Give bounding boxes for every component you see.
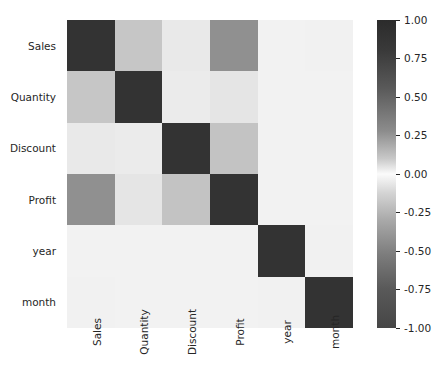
tick-mark-icon bbox=[396, 58, 400, 59]
x-tick-label: Quantity bbox=[138, 309, 150, 354]
heatmap-cell bbox=[67, 71, 115, 122]
heatmap-cell bbox=[67, 174, 115, 225]
heatmap-figure: Sales Quantity Discount Profit year mont… bbox=[0, 0, 443, 380]
heatmap-cell bbox=[305, 225, 353, 276]
y-tick-label: Sales bbox=[0, 20, 62, 71]
y-tick-label: Quantity bbox=[0, 71, 62, 122]
y-tick-label: Discount bbox=[0, 123, 62, 174]
colorbar-tick-label: -0.50 bbox=[404, 246, 431, 257]
heatmap-cell bbox=[210, 20, 258, 71]
heatmap-grid bbox=[67, 20, 353, 328]
y-tick-label: month bbox=[0, 277, 62, 328]
heatmap-cell bbox=[115, 174, 163, 225]
heatmap-cell bbox=[210, 71, 258, 122]
colorbar-gradient bbox=[377, 20, 396, 328]
heatmap-cell bbox=[258, 123, 306, 174]
heatmap-cell bbox=[67, 225, 115, 276]
colorbar-tick-label: 0.50 bbox=[404, 92, 427, 103]
y-tick-label: Profit bbox=[0, 174, 62, 225]
heatmap-cell bbox=[67, 123, 115, 174]
heatmap-cell bbox=[162, 174, 210, 225]
heatmap-cell bbox=[67, 20, 115, 71]
colorbar-tick-label: 1.00 bbox=[404, 15, 427, 26]
heatmap-cell bbox=[258, 225, 306, 276]
heatmap-cell bbox=[115, 20, 163, 71]
x-tick-label: month bbox=[329, 315, 341, 349]
tick-mark-icon bbox=[396, 135, 400, 136]
tick-mark-icon bbox=[396, 20, 400, 21]
heatmap-cell bbox=[210, 174, 258, 225]
heatmap-cell bbox=[162, 71, 210, 122]
x-tick-label: Profit bbox=[234, 318, 246, 345]
heatmap-cell bbox=[258, 174, 306, 225]
tick-mark-icon bbox=[396, 174, 400, 175]
y-tick-label: year bbox=[0, 225, 62, 276]
x-tick-label: Sales bbox=[91, 318, 103, 346]
colorbar-tick-labels: 1.000.750.500.250.00-0.25-0.50-0.75-1.00 bbox=[396, 20, 439, 328]
heatmap-cell bbox=[162, 123, 210, 174]
heatmap-cell bbox=[305, 174, 353, 225]
colorbar-tick-label: -0.25 bbox=[404, 207, 431, 218]
tick-mark-icon bbox=[396, 212, 400, 213]
heatmap-cell bbox=[305, 20, 353, 71]
x-tick: Quantity bbox=[115, 328, 163, 380]
x-tick: Discount bbox=[162, 328, 210, 380]
x-tick-label: Discount bbox=[186, 309, 198, 355]
heatmap-cell bbox=[210, 225, 258, 276]
heatmap-cell bbox=[258, 71, 306, 122]
heatmap-cell bbox=[258, 20, 306, 71]
x-tick: Sales bbox=[67, 328, 115, 380]
colorbar-tick-label: -0.75 bbox=[404, 284, 431, 295]
x-axis-tick-labels: Sales Quantity Discount Profit year mont… bbox=[67, 328, 353, 380]
colorbar-tick-label: 0.75 bbox=[404, 53, 427, 64]
heatmap-cell bbox=[115, 225, 163, 276]
x-tick-label: year bbox=[281, 320, 293, 343]
heatmap-cell bbox=[115, 123, 163, 174]
y-axis-tick-labels: Sales Quantity Discount Profit year mont… bbox=[0, 20, 62, 328]
tick-mark-icon bbox=[396, 289, 400, 290]
heatmap-cell bbox=[162, 225, 210, 276]
colorbar: 1.000.750.500.250.00-0.25-0.50-0.75-1.00 bbox=[377, 20, 439, 328]
heatmap-cell bbox=[210, 123, 258, 174]
heatmap-cell bbox=[162, 20, 210, 71]
x-tick: Profit bbox=[210, 328, 258, 380]
heatmap-cell bbox=[115, 71, 163, 122]
x-tick: month bbox=[305, 328, 353, 380]
tick-mark-icon bbox=[396, 97, 400, 98]
heatmap-cell bbox=[305, 71, 353, 122]
x-tick: year bbox=[258, 328, 306, 380]
heatmap-cell bbox=[305, 123, 353, 174]
colorbar-tick-label: 0.25 bbox=[404, 130, 427, 141]
tick-mark-icon bbox=[396, 251, 400, 252]
colorbar-tick-label: 0.00 bbox=[404, 169, 427, 180]
tick-mark-icon bbox=[396, 328, 400, 329]
colorbar-tick-label: -1.00 bbox=[404, 323, 431, 334]
